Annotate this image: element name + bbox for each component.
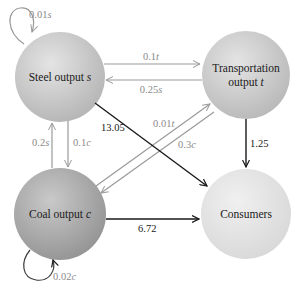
label-transport-to-steel: 0.25s	[140, 84, 162, 95]
node-transportation-label-line2: output t	[228, 76, 264, 89]
label-coal-self: 0.02c	[53, 271, 76, 282]
label-steel-to-coal: 0.1c	[73, 137, 91, 148]
label-steel-to-transport: 0.1t	[143, 51, 160, 62]
label-coal-to-transport: 0.3c	[178, 139, 196, 150]
label-coal-to-steel: 0.2s	[32, 137, 49, 148]
label-transport-to-consumers: 1.25	[250, 138, 268, 149]
node-consumers-label: Consumers	[220, 208, 272, 220]
label-coal-to-consumers: 6.72	[138, 223, 156, 234]
label-transport-to-coal: 0.01t	[153, 118, 175, 129]
node-transportation	[202, 31, 290, 119]
node-steel-label: Steel output s	[29, 71, 92, 84]
node-coal-label: Coal output c	[29, 208, 91, 221]
input-output-flow-diagram: Steel output s Transportation output t C…	[0, 0, 296, 289]
node-transportation-label: Transportation	[212, 62, 280, 75]
label-steel-self: 0.01s	[29, 9, 51, 20]
label-steel-to-consumers: 13.05	[101, 122, 125, 133]
